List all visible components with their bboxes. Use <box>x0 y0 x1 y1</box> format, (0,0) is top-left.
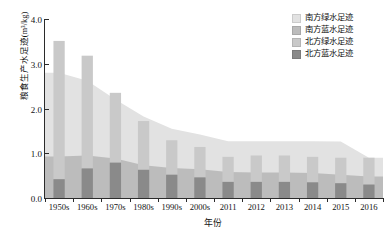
bar-north-green-water-footprint <box>251 155 262 181</box>
x-tick-label-2016: 2016 <box>360 203 377 212</box>
bar-north-green-water-footprint <box>335 158 346 184</box>
x-axis-title: 年份 <box>44 216 382 229</box>
x-tick <box>270 198 271 202</box>
bar-north-green-water-footprint <box>363 158 374 185</box>
x-tick <box>242 198 243 202</box>
legend-label: 北方蓝水足迹 <box>305 50 353 58</box>
y-tick-label: 2.0 <box>31 105 42 114</box>
y-tick-label: 0.0 <box>31 195 42 204</box>
bar-north-blue-water-footprint <box>279 182 290 198</box>
bar-north-green-water-footprint <box>279 155 290 181</box>
bar-north-blue-water-footprint <box>335 183 346 198</box>
legend-swatch-icon <box>292 14 301 23</box>
x-tick <box>158 198 159 202</box>
bar-north-green-water-footprint <box>166 140 177 174</box>
x-tick <box>73 198 74 202</box>
bar-north-blue-water-footprint <box>110 163 121 198</box>
x-tick-label-2000s: 2000s <box>190 203 211 212</box>
x-tick <box>327 198 328 202</box>
bar-north-green-water-footprint <box>138 121 149 170</box>
bar-north-blue-water-footprint <box>251 182 262 198</box>
bar-north-blue-water-footprint <box>166 175 177 198</box>
y-tick-label: 1.0 <box>31 150 42 159</box>
x-tick-label-2013: 2013 <box>276 203 293 212</box>
x-tick-label-1950s: 1950s <box>49 203 70 212</box>
bar-north-blue-water-footprint <box>194 177 205 198</box>
legend-item-0[interactable]: 南方绿水足迹 <box>292 13 353 23</box>
x-tick-label-2012: 2012 <box>248 203 265 212</box>
bar-north-green-water-footprint <box>194 147 205 177</box>
x-tick-label-1960s: 1960s <box>77 203 98 212</box>
bar-north-blue-water-footprint <box>82 168 93 198</box>
x-tick <box>186 198 187 202</box>
bar-north-blue-water-footprint <box>307 182 318 198</box>
legend-label: 北方绿水足迹 <box>305 38 353 46</box>
legend-label: 南方蓝水足迹 <box>305 26 353 34</box>
bar-north-green-water-footprint <box>53 41 64 179</box>
x-tick <box>214 198 215 202</box>
legend-item-2[interactable]: 北方绿水足迹 <box>292 37 353 47</box>
x-tick-label-2015: 2015 <box>332 203 349 212</box>
y-tick-label: 3.0 <box>31 60 42 69</box>
bar-north-green-water-footprint <box>307 157 318 183</box>
bar-north-green-water-footprint <box>222 157 233 182</box>
legend-swatch-icon <box>292 50 301 59</box>
bar-north-green-water-footprint <box>82 56 93 169</box>
x-tick <box>383 198 384 202</box>
x-tick <box>45 198 46 202</box>
chart-legend: 南方绿水足迹南方蓝水足迹北方绿水足迹北方蓝水足迹 <box>292 13 353 60</box>
bar-north-blue-water-footprint <box>53 179 64 198</box>
y-tick: 1.0 <box>45 153 49 154</box>
y-tick: 4.0 <box>45 19 49 20</box>
x-tick <box>101 198 102 202</box>
legend-item-1[interactable]: 南方蓝水足迹 <box>292 25 353 35</box>
x-tick-label-1970s: 1970s <box>105 203 126 212</box>
x-tick-label-2014: 2014 <box>304 203 321 212</box>
y-tick-label: 4.0 <box>31 16 42 25</box>
x-tick-label-1990s: 1990s <box>161 203 182 212</box>
bar-north-blue-water-footprint <box>363 185 374 198</box>
legend-item-3[interactable]: 北方蓝水足迹 <box>292 50 353 60</box>
legend-swatch-icon <box>292 26 301 35</box>
x-tick <box>355 198 356 202</box>
legend-swatch-icon <box>292 38 301 47</box>
bar-north-blue-water-footprint <box>138 170 149 198</box>
x-tick <box>299 198 300 202</box>
y-tick: 3.0 <box>45 64 49 65</box>
x-tick-label-2011: 2011 <box>220 203 237 212</box>
y-tick: 2.0 <box>45 109 49 110</box>
water-footprint-chart: 粮食生产水足迹(m³/kg) 0.01.02.03.04.0 1950s1960… <box>0 0 392 233</box>
bar-north-blue-water-footprint <box>222 182 233 198</box>
bar-north-green-water-footprint <box>110 93 121 163</box>
x-tick <box>130 198 131 202</box>
y-axis-title: 粮食生产水足迹(m³/kg) <box>17 0 29 126</box>
legend-label: 南方绿水足迹 <box>305 14 353 22</box>
x-tick-label-1980s: 1980s <box>133 203 154 212</box>
